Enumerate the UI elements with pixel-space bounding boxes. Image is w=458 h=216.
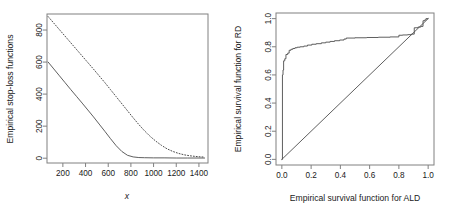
x-tick-label: 1400 — [190, 169, 209, 178]
y-tick-label: 0.8 — [265, 41, 274, 53]
y-tick-label: 600 — [36, 55, 45, 69]
x-tick-label: 0.0 — [276, 171, 288, 180]
y-tick-label: 0.0 — [265, 153, 274, 165]
y-tick-label: 800 — [36, 23, 45, 37]
x-tick-label: 0.6 — [364, 171, 376, 180]
data-series-group — [48, 17, 204, 158]
empirical-survival-pp-plot: 0.00.20.40.60.81.0 0.00.20.40.60.81.0 Em… — [229, 0, 458, 216]
y-tick-label: 0.2 — [265, 125, 274, 137]
left-plot-svg: 0200400600800 200400600800100012001400 x… — [0, 0, 229, 216]
series-dotted-stop-loss — [48, 17, 204, 158]
x-tick-label: 600 — [101, 169, 115, 178]
y-axis-ticks: 0.00.20.40.60.81.0 — [265, 12, 277, 165]
y-tick-label: 400 — [36, 87, 45, 101]
x-tick-label: 0.4 — [335, 171, 347, 180]
x-tick-label: 1.0 — [422, 171, 434, 180]
x-axis-label: Empirical survival function for ALD — [290, 193, 420, 203]
x-tick-label: 1000 — [144, 169, 163, 178]
x-tick-label: 0.2 — [305, 171, 317, 180]
x-axis-ticks: 0.00.20.40.60.81.0 — [276, 165, 434, 180]
right-plot-svg: 0.00.20.40.60.81.0 0.00.20.40.60.81.0 Em… — [229, 0, 458, 216]
x-tick-label: 0.8 — [393, 171, 405, 180]
plot-box — [47, 14, 208, 163]
x-axis-label: x — [124, 191, 130, 201]
y-axis-ticks: 0200400600800 — [36, 23, 48, 161]
x-tick-label: 200 — [56, 169, 70, 178]
y-tick-label: 0.4 — [265, 97, 274, 109]
y-tick-label: 200 — [36, 119, 45, 133]
y-axis-label: Empirical survival function for RD — [233, 26, 243, 153]
y-tick-label: 0 — [36, 155, 45, 160]
x-tick-label: 1200 — [167, 169, 186, 178]
empirical-stop-loss-plot: 0200400600800 200400600800100012001400 x… — [0, 0, 229, 216]
y-tick-label: 1.0 — [265, 12, 274, 24]
x-tick-label: 400 — [79, 169, 93, 178]
y-tick-label: 0.6 — [265, 69, 274, 81]
figure-root: 0200400600800 200400600800100012001400 x… — [0, 0, 458, 216]
x-tick-label: 800 — [124, 169, 138, 178]
x-axis-ticks: 200400600800100012001400 — [56, 163, 208, 178]
series-reference-diagonal — [282, 19, 428, 160]
data-series-group — [282, 19, 428, 160]
y-axis-label: Empirical stop-loss functions — [5, 35, 15, 144]
